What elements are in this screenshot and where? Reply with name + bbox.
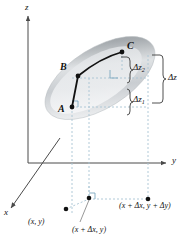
point-label-C: C — [127, 41, 134, 51]
x-axis — [11, 138, 60, 208]
point-label-B: B — [60, 62, 67, 72]
y-axis-label: y — [172, 156, 176, 165]
guide-plane-edge-2 — [66, 199, 89, 209]
projection-point-xdx-y — [87, 196, 92, 201]
x-axis-label: x — [4, 208, 8, 217]
increment-label-dz1: Δz1 — [133, 95, 145, 105]
bracket-dz — [160, 55, 166, 103]
figure-canvas: z y x A B C Δz2 Δz1 Δz (x, y) (x + Δx, y… — [0, 0, 192, 238]
increment-label-dz: Δz — [168, 73, 177, 82]
dz1-sub: 1 — [142, 99, 145, 105]
increment-label-dz2: Δz2 — [133, 63, 145, 73]
point-label-A: A — [58, 104, 65, 114]
projection-point-xy — [64, 207, 69, 212]
coord-label-xy: (x, y) — [28, 218, 44, 226]
dz-main: Δz — [168, 72, 177, 82]
dz2-main: Δz — [133, 62, 142, 72]
point-C — [120, 50, 125, 55]
coord-label-xdx-y: (x + Δx, y) — [72, 226, 106, 234]
dz2-sub: 2 — [142, 67, 145, 73]
point-A — [70, 105, 75, 110]
dz1-main: Δz — [133, 94, 142, 104]
z-axis-label: z — [25, 3, 29, 12]
leader-line-xdx-y — [80, 200, 89, 222]
point-B — [76, 74, 81, 79]
coord-label-xdx-ydy: (x + Δx, y + Δy) — [119, 202, 171, 210]
